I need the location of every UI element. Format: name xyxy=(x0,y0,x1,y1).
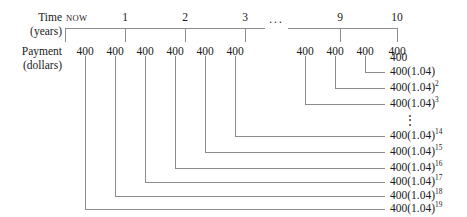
payment-axis-caption-line1: Payment xyxy=(0,46,62,58)
timeline-tick-label-1: 1 xyxy=(122,12,128,24)
timeline-tick-label-2: 2 xyxy=(182,12,188,24)
payment-amount-9: 400 xyxy=(356,46,373,58)
future-value-exponent-3: 2 xyxy=(435,79,439,88)
payment-axis-caption: Payment (dollars) xyxy=(0,46,62,72)
future-value-label-3: 400(1.04)2 xyxy=(390,82,439,94)
payment-axis-caption-line2: (dollars) xyxy=(0,60,62,72)
future-value-label-4: 400(1.04)3 xyxy=(390,98,439,110)
payment-amount-6: 400 xyxy=(226,46,243,58)
timeline-tick-label-9: 9 xyxy=(337,12,343,24)
future-value-exponent-4: 3 xyxy=(435,95,439,104)
future-value-exponent-7: 16 xyxy=(435,159,442,168)
payment-amount-8: 400 xyxy=(326,46,343,58)
future-value-label-5: 400(1.04)14 xyxy=(390,130,442,142)
future-value-label-6: 400(1.04)15 xyxy=(390,146,442,158)
future-value-label-2: 400(1.04) xyxy=(390,66,435,78)
payment-amount-5: 400 xyxy=(196,46,213,58)
future-value-exponent-8: 17 xyxy=(435,173,442,182)
value-vertical-ellipsis: ⋮ xyxy=(404,113,416,127)
future-value-exponent-5: 14 xyxy=(435,127,442,136)
future-value-label-8: 400(1.04)17 xyxy=(390,176,442,188)
time-axis-caption-line2: (years) xyxy=(0,26,62,38)
payment-amount-3: 400 xyxy=(136,46,153,58)
payment-amount-4: 400 xyxy=(166,46,183,58)
cash-flow-timeline-figure: Time (years) Payment (dollars) ··· NOW12… xyxy=(0,0,467,217)
timeline-tick-label-3: 3 xyxy=(242,12,248,24)
future-value-exponent-9: 18 xyxy=(435,187,442,196)
time-axis-caption-line1: Time xyxy=(0,12,62,24)
future-value-exponent-6: 15 xyxy=(435,143,442,152)
payment-amount-2: 400 xyxy=(106,46,123,58)
future-value-label-10: 400(1.04)19 xyxy=(390,203,442,215)
future-value-label-1: 400 xyxy=(390,52,407,64)
future-value-label-7: 400(1.04)16 xyxy=(390,162,442,174)
axis-ellipsis: ··· xyxy=(269,16,284,28)
timeline-tick-label-now: NOW xyxy=(66,14,87,23)
payment-amount-1: 400 xyxy=(76,46,93,58)
time-axis-caption: Time (years) xyxy=(0,12,62,38)
future-value-exponent-10: 19 xyxy=(435,200,442,209)
payment-amount-7: 400 xyxy=(296,46,313,58)
timeline-tick-label-10: 10 xyxy=(391,12,403,24)
